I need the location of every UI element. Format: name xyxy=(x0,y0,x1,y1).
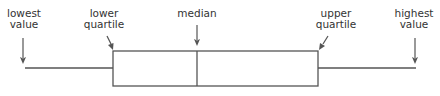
lower-quartile-label: lower quartile xyxy=(84,8,124,30)
interquartile-box xyxy=(113,51,318,86)
lowest-value-label: lowest value xyxy=(7,8,41,30)
lower-quartile-arrow xyxy=(107,36,114,50)
highest-value-label: highest value xyxy=(395,8,434,30)
upper-quartile-arrow xyxy=(319,36,328,50)
upper-quartile-label-line2: quartile xyxy=(316,19,356,30)
median-arrow xyxy=(194,25,200,46)
highest-value-arrow xyxy=(412,38,418,64)
lowest-value-label-line2: value xyxy=(7,19,41,30)
median-label-line1: median xyxy=(177,8,216,19)
median-label: median xyxy=(177,8,216,19)
upper-quartile-label: upper quartile xyxy=(316,8,356,30)
highest-value-label-line2: value xyxy=(395,19,434,30)
lowest-value-arrow xyxy=(20,38,26,64)
lower-quartile-label-line2: quartile xyxy=(84,19,124,30)
box-plot-diagram: lowest value lower quartile median upper… xyxy=(0,0,440,96)
box-plot-graphic xyxy=(0,0,440,96)
